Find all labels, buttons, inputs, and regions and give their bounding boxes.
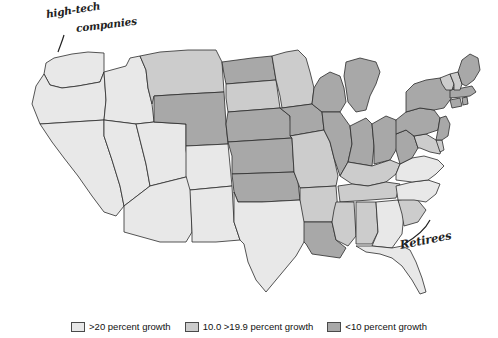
- legend-swatch-high: [71, 322, 85, 332]
- state-RI[interactable]: [462, 97, 468, 105]
- map-legend: >20 percent growth 10.0 >19.9 percent gr…: [0, 316, 498, 338]
- legend-item-low[interactable]: <10 percent growth: [327, 322, 427, 332]
- state-SD[interactable]: [226, 80, 280, 112]
- state-KS[interactable]: [228, 138, 294, 174]
- state-AR[interactable]: [300, 186, 338, 222]
- state-NC[interactable]: [396, 180, 440, 202]
- state-OK[interactable]: [232, 172, 300, 202]
- states-layer: [32, 50, 480, 294]
- state-MI[interactable]: [344, 58, 380, 112]
- map-figure: high-tech companies Retirees >20 percent…: [0, 0, 498, 338]
- state-CO[interactable]: [186, 144, 232, 190]
- state-IN[interactable]: [348, 118, 374, 166]
- state-TX[interactable]: [234, 192, 312, 292]
- state-NM[interactable]: [190, 186, 240, 242]
- state-FL[interactable]: [356, 246, 426, 294]
- legend-label-high: >20 percent growth: [89, 322, 171, 332]
- state-NE[interactable]: [226, 108, 292, 142]
- legend-label-mid: 10.0 >19.9 percent growth: [203, 322, 314, 332]
- legend-label-low: <10 percent growth: [345, 322, 427, 332]
- state-MS[interactable]: [332, 202, 356, 246]
- state-CT[interactable]: [450, 98, 462, 108]
- legend-item-mid[interactable]: 10.0 >19.9 percent growth: [185, 322, 314, 332]
- state-AL[interactable]: [356, 202, 378, 244]
- legend-swatch-mid: [185, 322, 199, 332]
- state-WI[interactable]: [312, 72, 346, 112]
- legend-item-high[interactable]: >20 percent growth: [71, 322, 171, 332]
- state-ME[interactable]: [458, 54, 480, 86]
- state-ND[interactable]: [222, 56, 276, 84]
- us-choropleth-map[interactable]: [0, 0, 498, 310]
- legend-swatch-low: [327, 322, 341, 332]
